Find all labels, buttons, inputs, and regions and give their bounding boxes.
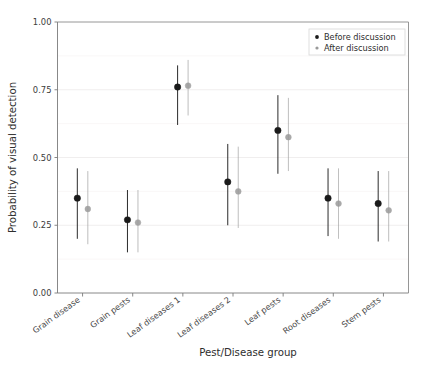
data-point (225, 179, 231, 185)
data-point (325, 195, 331, 201)
data-point (85, 206, 91, 212)
data-point (74, 195, 80, 201)
legend-label-after: After discussion (324, 43, 389, 53)
data-point (135, 220, 141, 226)
x-axis-title: Pest/Disease group (199, 347, 297, 358)
data-point (174, 84, 180, 90)
legend-marker-after (315, 46, 318, 49)
data-point (235, 188, 241, 194)
figure-container: 0.000.250.500.751.00 Grain diseaseGrain … (0, 0, 430, 377)
data-point (185, 83, 191, 89)
data-point (386, 207, 392, 213)
y-tick-label: 0.25 (33, 220, 52, 230)
data-point (336, 201, 342, 207)
chart-legend: Before discussionAfter discussion (309, 29, 405, 55)
y-tick-label: 0.50 (33, 153, 52, 163)
legend-marker-before (315, 35, 319, 39)
plot-background (0, 0, 430, 377)
y-tick-label: 0.00 (33, 288, 52, 298)
data-point (285, 134, 291, 140)
legend-label-before: Before discussion (324, 32, 396, 42)
y-axis-title: Probability of visual detection (7, 82, 18, 233)
y-tick-label: 1.00 (33, 17, 52, 27)
chart-plot: 0.000.250.500.751.00 Grain diseaseGrain … (0, 0, 430, 377)
data-point (375, 200, 381, 206)
data-point (275, 127, 281, 133)
y-tick-label: 0.75 (33, 85, 52, 95)
data-point (124, 217, 130, 223)
